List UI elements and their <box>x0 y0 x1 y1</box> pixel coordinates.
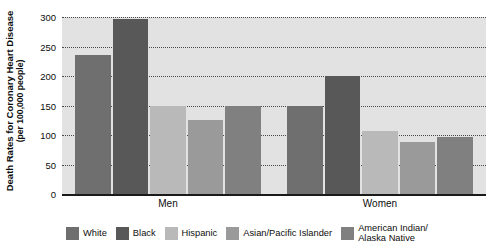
legend-swatch-hispanic <box>165 227 178 240</box>
y-tick-label-100: 100 <box>26 130 56 141</box>
bar-men-hispanic <box>150 106 186 195</box>
bar-men-american-indian-alaska-native <box>225 106 261 195</box>
legend-item-american-indian-alaska-native[interactable]: American Indian/ Alaska Native <box>341 223 428 244</box>
legend-item-black[interactable]: Black <box>116 227 156 240</box>
legend-swatch-black <box>116 227 129 240</box>
bar-men-white <box>75 55 111 194</box>
legend-item-hispanic[interactable]: Hispanic <box>165 227 218 240</box>
y-tick-label-300: 300 <box>26 12 56 23</box>
legend-label-asian-pacific-islander: Asian/Pacific Islander <box>243 228 332 238</box>
bar-men-asian-pacific-islander <box>188 120 224 194</box>
bar-women-american-indian-alaska-native <box>437 137 473 194</box>
y-tick-label-250: 250 <box>26 41 56 52</box>
legend-label-black: Black <box>133 228 156 238</box>
y-tick-label-200: 200 <box>26 71 56 82</box>
legend-swatch-white <box>66 227 79 240</box>
coronary-heart-disease-bar-chart: Death Rates for Coronary Heart Disease (… <box>0 0 494 250</box>
legend-label-american-indian-alaska-native: American Indian/ Alaska Native <box>358 223 428 244</box>
bar-women-asian-pacific-islander <box>400 142 436 194</box>
y-axis-tick-labels: 050100150200250300 <box>0 17 62 194</box>
legend-swatch-asian-pacific-islander <box>226 227 239 240</box>
legend-label-hispanic: Hispanic <box>182 228 218 238</box>
y-tick-label-50: 50 <box>26 159 56 170</box>
legend-label-white: White <box>83 228 107 238</box>
bar-group-container <box>62 17 486 194</box>
legend-item-asian-pacific-islander[interactable]: Asian/Pacific Islander <box>226 227 332 240</box>
plot-area <box>62 17 486 194</box>
bar-men-black <box>113 19 149 194</box>
bar-women-black <box>325 76 361 194</box>
group-label-women: Women <box>363 198 397 209</box>
y-tick-label-150: 150 <box>26 100 56 111</box>
group-label-men: Men <box>158 198 177 209</box>
legend-item-white[interactable]: White <box>66 227 107 240</box>
legend: WhiteBlackHispanicAsian/Pacific Islander… <box>0 216 494 250</box>
bar-women-hispanic <box>362 131 398 194</box>
y-tick-label-0: 0 <box>26 189 56 200</box>
x-axis-line <box>62 194 486 196</box>
bar-women-white <box>287 106 323 195</box>
legend-swatch-american-indian-alaska-native <box>341 227 354 240</box>
